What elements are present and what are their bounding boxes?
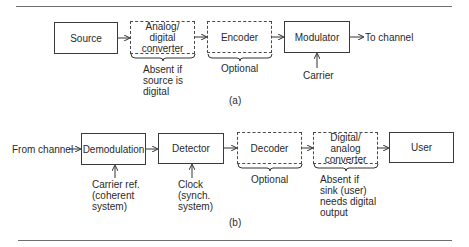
demodulation-block: Demodulation <box>81 133 146 165</box>
ad-converter-note: Absent if source is digital <box>143 64 183 97</box>
encoder-block: Encoder <box>207 21 272 53</box>
caption-b: (b) <box>229 217 241 228</box>
da-converter-label: Digital/ analog converter <box>325 132 367 165</box>
source-block: Source <box>54 22 118 54</box>
demodulation-label: Demodulation <box>83 144 145 155</box>
carrier-label: Carrier <box>303 70 334 81</box>
user-label: User <box>411 142 432 153</box>
decoder-label: Decoder <box>251 143 289 154</box>
decoder-note: Optional <box>251 174 288 185</box>
encoder-note: Optional <box>221 63 258 74</box>
to-channel-label: To channel <box>365 32 413 43</box>
da-converter-block: Digital/ analog converter <box>313 132 378 164</box>
ad-converter-block: Analog/ digital converter <box>130 21 195 54</box>
encoder-label: Encoder <box>221 32 258 43</box>
caption-a: (a) <box>229 95 241 106</box>
detector-label: Detector <box>172 143 210 154</box>
detector-block: Detector <box>158 133 224 164</box>
decoder-block: Decoder <box>237 132 302 164</box>
carrier-ref-note: Carrier ref. (coherent system) <box>92 179 140 212</box>
source-label: Source <box>70 33 102 44</box>
modulator-block: Modulator <box>284 21 350 53</box>
modulator-label: Modulator <box>295 32 339 43</box>
ad-converter-label: Analog/ digital converter <box>142 21 184 54</box>
from-channel-label: From channel <box>12 144 73 155</box>
da-converter-note: Absent if sink (user) needs digital outp… <box>320 174 376 218</box>
user-block: User <box>389 132 454 163</box>
clock-note: Clock (synch. system) <box>178 179 213 212</box>
